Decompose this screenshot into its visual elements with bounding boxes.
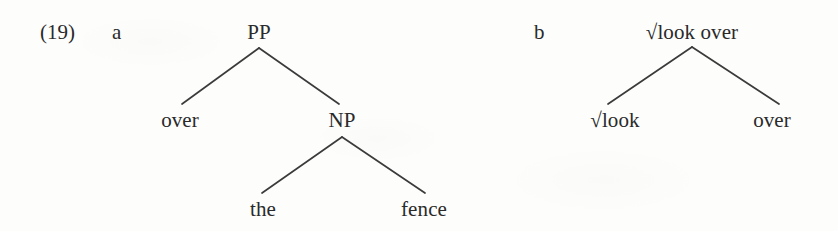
tree-a-edge-pp-np	[259, 48, 339, 104]
example-number: (19)	[40, 22, 75, 43]
tree-a-terminal-fence: fence	[401, 199, 447, 220]
tree-a-edge-np-the	[262, 137, 342, 193]
tree-a-terminal-over: over	[161, 110, 199, 131]
tree-a-terminal-the: the	[250, 199, 276, 220]
tree-a-edge-pp-over	[182, 48, 259, 104]
tree-a-node-np: NP	[328, 110, 355, 131]
subexample-label-b: b	[534, 22, 545, 43]
tree-b-edge-root-left	[608, 47, 692, 104]
tree-b-edge-root-right	[692, 47, 779, 104]
tree-a-edge-np-fence	[342, 137, 425, 193]
tree-b-node-root-look-over: √look over	[646, 22, 738, 43]
tree-b-terminal-root-look: √look	[590, 110, 639, 131]
linguistics-figure: (19) a b PP over NP the fence √look over…	[0, 0, 838, 231]
tree-b-terminal-over: over	[753, 110, 791, 131]
tree-a-node-pp: PP	[247, 22, 271, 43]
subexample-label-a: a	[112, 22, 121, 43]
